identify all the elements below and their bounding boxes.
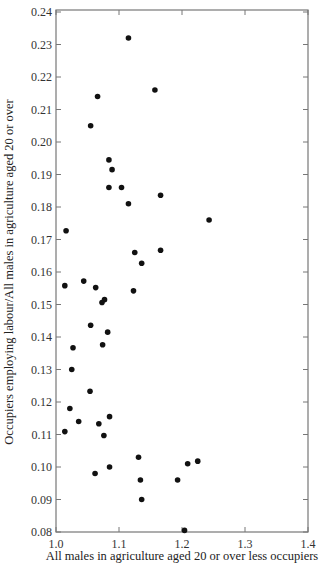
- data-point: [175, 477, 181, 483]
- data-point: [93, 285, 99, 291]
- y-tick-label: 0.22: [31, 70, 52, 84]
- x-axis-title: All males in agriculture aged 20 or over…: [46, 549, 319, 563]
- data-point: [63, 228, 69, 234]
- y-tick-label: 0.17: [31, 233, 52, 247]
- data-point: [139, 497, 145, 503]
- y-tick-label: 0.11: [31, 428, 52, 442]
- data-point: [206, 217, 212, 223]
- data-point: [76, 419, 82, 425]
- data-point: [67, 406, 73, 412]
- data-point: [92, 471, 98, 477]
- data-point: [109, 167, 115, 173]
- y-tick-label: 0.13: [31, 363, 52, 377]
- y-tick-label: 0.08: [31, 525, 52, 539]
- data-point: [101, 433, 107, 439]
- y-axis-title: Occupiers employing labour/All males in …: [2, 98, 16, 444]
- data-point: [95, 94, 101, 100]
- data-point: [136, 454, 142, 460]
- data-point: [100, 342, 106, 348]
- data-point: [126, 201, 132, 207]
- data-point: [99, 300, 105, 306]
- y-tick-label: 0.16: [31, 265, 52, 279]
- y-tick-label: 0.18: [31, 200, 52, 214]
- data-point: [88, 323, 94, 329]
- data-point: [87, 388, 93, 394]
- data-point: [107, 414, 113, 420]
- data-point: [62, 429, 68, 435]
- data-point: [158, 247, 164, 253]
- data-point: [158, 193, 164, 199]
- data-point: [88, 123, 94, 129]
- y-tick-label: 0.14: [31, 330, 52, 344]
- data-point: [139, 260, 145, 266]
- data-point: [131, 288, 137, 294]
- data-point: [119, 185, 125, 191]
- y-axis: 0.080.090.100.110.120.130.140.150.160.17…: [31, 5, 308, 539]
- data-point: [185, 461, 191, 467]
- data-point: [81, 278, 87, 284]
- data-points: [62, 35, 212, 533]
- data-point: [107, 464, 113, 470]
- data-point: [126, 35, 132, 41]
- data-point: [62, 283, 68, 289]
- y-tick-label: 0.21: [31, 103, 52, 117]
- data-point: [105, 329, 111, 335]
- y-tick-label: 0.24: [31, 5, 52, 19]
- data-point: [70, 345, 76, 351]
- data-point: [96, 421, 102, 427]
- data-point: [152, 87, 158, 93]
- plot-frame: [56, 10, 308, 532]
- data-point: [132, 250, 138, 256]
- y-tick-label: 0.09: [31, 493, 52, 507]
- plot-border: [56, 10, 308, 532]
- y-tick-label: 0.12: [31, 395, 52, 409]
- data-point: [106, 185, 112, 191]
- data-point: [106, 157, 112, 163]
- data-point: [138, 477, 144, 483]
- x-axis: 1.01.11.21.31.4: [49, 10, 316, 551]
- data-point: [195, 458, 201, 464]
- data-point: [69, 367, 75, 373]
- y-tick-label: 0.19: [31, 168, 52, 182]
- scatter-chart: 1.01.11.21.31.4 0.080.090.100.110.120.13…: [0, 0, 321, 567]
- y-tick-label: 0.10: [31, 460, 52, 474]
- y-tick-label: 0.23: [31, 38, 52, 52]
- y-tick-label: 0.15: [31, 298, 52, 312]
- y-tick-label: 0.20: [31, 135, 52, 149]
- data-point: [182, 528, 188, 534]
